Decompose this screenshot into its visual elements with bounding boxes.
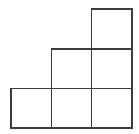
square-cell-r3c2 <box>51 88 91 128</box>
square-cell-r3c3 <box>92 88 132 128</box>
square-cell-r1c3 <box>92 9 132 49</box>
square-cell-r2c3 <box>92 49 132 89</box>
staircase-diagram: Staircase figure of six unit squares A s… <box>0 0 139 134</box>
square-cell-r2c2 <box>51 49 91 89</box>
square-cell-r3c1 <box>11 88 51 128</box>
staircase-figure: Staircase figure of six unit squares A s… <box>0 0 139 134</box>
